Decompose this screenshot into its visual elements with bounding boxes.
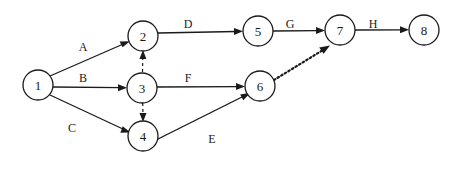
edge-dummy-6-7-line (274, 50, 323, 80)
node-5[interactable]: 5 (243, 16, 273, 46)
edge-E-label: E (208, 132, 215, 146)
edge-E-line (156, 96, 244, 140)
activity-network-diagram: A B C D F E (0, 0, 458, 169)
edge-C-label: C (68, 121, 76, 135)
edge-B-line (53, 87, 120, 88)
node-2[interactable]: 2 (128, 21, 158, 51)
edge-H-label: H (369, 17, 378, 31)
node-5-label: 5 (255, 24, 262, 39)
edge-G-arrowhead (316, 27, 325, 34)
edge-G: G (273, 17, 325, 34)
node-8-label: 8 (421, 23, 428, 38)
edge-A: A (50, 40, 130, 76)
edge-C-line (50, 95, 124, 130)
node-1[interactable]: 1 (23, 70, 53, 100)
node-6-label: 6 (257, 79, 264, 94)
node-7-label: 7 (337, 23, 344, 38)
edge-D-arrowhead (234, 28, 243, 35)
edge-dummy-3-4 (140, 103, 147, 122)
edge-A-label: A (79, 40, 88, 54)
node-8[interactable]: 8 (409, 15, 439, 45)
node-4[interactable]: 4 (128, 121, 158, 151)
node-3[interactable]: 3 (127, 73, 157, 103)
edge-F-arrowhead (236, 83, 245, 90)
edge-B: B (53, 71, 127, 91)
edge-dummy-6-7 (274, 46, 330, 81)
edge-F: F (157, 71, 245, 90)
edge-H: H (355, 17, 409, 33)
edge-G-label: G (286, 17, 295, 31)
node-4-label: 4 (140, 129, 147, 144)
edge-H-arrowhead (400, 26, 409, 33)
node-1-label: 1 (35, 78, 42, 93)
edge-E: E (156, 93, 251, 146)
edge-D-line (158, 32, 236, 34)
edge-D: D (158, 17, 243, 35)
edge-B-arrowhead (118, 84, 127, 91)
node-3-label: 3 (139, 81, 146, 96)
edge-C: C (50, 95, 131, 135)
graph-canvas: A B C D F E (0, 0, 458, 169)
edge-B-label: B (79, 71, 87, 85)
edge-D-label: D (184, 17, 193, 31)
node-6[interactable]: 6 (245, 71, 275, 101)
edge-F-label: F (185, 71, 192, 85)
edge-dummy-3-2 (139, 50, 146, 72)
node-2-label: 2 (140, 29, 147, 44)
node-7[interactable]: 7 (325, 15, 355, 45)
edge-A-arrowhead (120, 41, 130, 47)
